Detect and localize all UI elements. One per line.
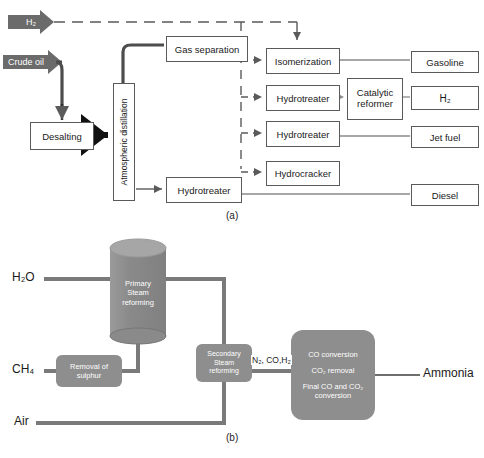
product-diesel-label: Diesel [432, 190, 458, 201]
box-hydrotreater-1-label: Hydrotreater [277, 93, 330, 104]
product-gasoline[interactable]: Gasoline [411, 51, 479, 73]
unit-secondary-line3: reforming [209, 367, 239, 376]
unit-conversion-line1: CO conversion [308, 350, 358, 359]
unit-conversion-removal[interactable]: CO conversion CO₂ removal Final CO and C… [291, 330, 375, 420]
unit-sulphur-line2: sulphur [77, 371, 102, 380]
unit-primary-line2: Steam [127, 288, 149, 297]
box-hydrotreater-bottom-label: Hydrotreater [178, 185, 231, 196]
unit-secondary-steam-reforming[interactable]: Secondary Steam reforming [196, 344, 252, 382]
box-atmospheric-distillation[interactable]: Atmospheric distillation [113, 83, 135, 201]
product-ammonia-label: Ammonia [423, 366, 474, 380]
figure-canvas: H₂ Crude oil Desalting Atmospheric disti… [0, 0, 484, 458]
unit-primary-steam-reforming[interactable]: Primary Steam reforming [110, 262, 166, 324]
air-pipe [36, 382, 224, 423]
product-h2-label: H₂ [439, 93, 450, 104]
box-isomerization-label: Isomerization [275, 56, 332, 67]
distillation-to-gas-separation-pipe [123, 45, 164, 83]
feed-air-label: Air [14, 414, 29, 428]
box-isomerization[interactable]: Isomerization [266, 48, 340, 74]
crude-oil-feed-label: Crude oil [8, 57, 44, 67]
unit-primary-line3: reforming [122, 298, 154, 307]
box-catalytic-reformer[interactable]: Catalytic reformer [347, 78, 403, 120]
unit-conversion-line2: CO₂ removal [312, 366, 355, 375]
box-desalting-label: Desalting [42, 131, 82, 142]
unit-secondary-line1: Secondary [207, 350, 240, 359]
stream-label-syngas: N₂, CO,H₂ [251, 355, 292, 365]
h2-feed-label-wrap: H₂ [8, 14, 54, 30]
box-gas-separation-label: Gas separation [175, 44, 239, 55]
box-hydrotreater-2[interactable]: Hydrotreater [266, 121, 340, 147]
box-desalting[interactable]: Desalting [30, 122, 94, 150]
box-hydrotreater-1[interactable]: Hydrotreater [266, 85, 340, 111]
feed-h2o-label: H₂O [12, 270, 35, 284]
primary-to-secondary-pipe [164, 279, 224, 344]
product-diesel[interactable]: Diesel [411, 184, 479, 206]
unit-primary-line1: Primary [125, 279, 151, 288]
product-jet-fuel-label: Jet fuel [430, 132, 461, 143]
unit-sulphur-line1: Removal of [70, 362, 108, 371]
box-hydrotreater-bottom[interactable]: Hydrotreater [166, 177, 242, 203]
caption-panel-b: (b) [226, 432, 238, 443]
unit-removal-of-sulphur[interactable]: Removal of sulphur [56, 355, 122, 387]
feed-ch4-label: CH₄ [12, 362, 34, 376]
unit-conversion-line4: conversion [303, 391, 363, 400]
box-atmospheric-distillation-label: Atmospheric distillation [119, 99, 129, 186]
crude-oil-feed-label-wrap: Crude oil [3, 54, 49, 70]
sulphur-to-primary-pipe [122, 344, 138, 371]
product-h2[interactable]: H₂ [411, 86, 479, 110]
unit-secondary-line2: Steam [214, 359, 234, 368]
box-hydrocracker[interactable]: Hydrocracker [266, 161, 340, 186]
box-gas-separation[interactable]: Gas separation [166, 36, 248, 62]
h2-feed-label: H₂ [26, 17, 36, 27]
caption-panel-a: (a) [226, 210, 238, 221]
product-gasoline-label: Gasoline [426, 57, 464, 68]
box-catalytic-reformer-line2: reformer [357, 99, 393, 110]
unit-conversion-line3: Final CO and CO₂ [303, 382, 363, 391]
box-hydrocracker-label: Hydrocracker [275, 168, 332, 179]
product-jet-fuel[interactable]: Jet fuel [411, 126, 479, 148]
box-hydrotreater-2-label: Hydrotreater [277, 129, 330, 140]
